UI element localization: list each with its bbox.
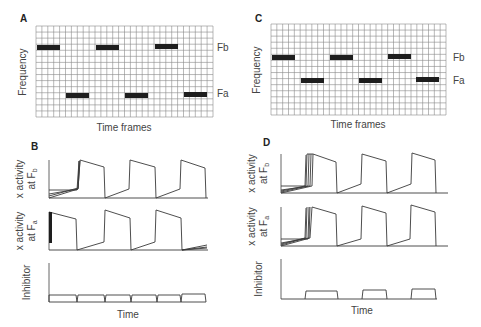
panel-label-c: C [255,13,262,24]
frequency-label-fb: Fb [453,52,465,63]
time-axis-label: Time [117,309,139,320]
panel-label-d: D [263,137,270,148]
tone-bar-fa [125,93,148,98]
tone-bar-fa [416,77,439,82]
y-axis-label: x activity [246,207,257,245]
tone-bar-fb [330,55,353,60]
y-axis-label: Frequency [17,48,28,95]
time-axis-label: Time [351,305,373,316]
panel-label-a: A [20,13,27,24]
tone-bar-fa [66,93,89,98]
tone-bar-fb [96,45,119,50]
x-axis-label: Time frames [96,122,151,133]
y-axis-label: Frequency [251,46,262,93]
y-axis-label: Inhibitor [21,264,32,300]
tone-bar-fa [184,92,207,97]
frequency-label-fa: Fa [453,75,465,86]
background [0,0,481,327]
y-axis-label: x activity [14,212,25,250]
y-axis-label: x activity [246,154,257,192]
tone-bar-fb [272,55,295,60]
tone-bar-fa [301,78,324,83]
tone-bar-fb [155,44,178,49]
tone-bar-fa [359,78,382,83]
frequency-label-fa: Fa [217,88,229,99]
x-axis-label: Time frames [330,119,385,130]
dense-trace-bundle [49,212,52,243]
tone-bar-fb [388,54,411,59]
frequency-label-fb: Fb [217,42,229,53]
y-axis-label: Inhibitor [253,261,264,297]
figure-canvas: A FbFa Time frames Frequency C FbFa Time… [0,0,481,327]
y-axis-label: x activity [14,160,25,198]
panel-label-b: B [31,141,38,152]
tone-bar-fb [37,45,60,50]
